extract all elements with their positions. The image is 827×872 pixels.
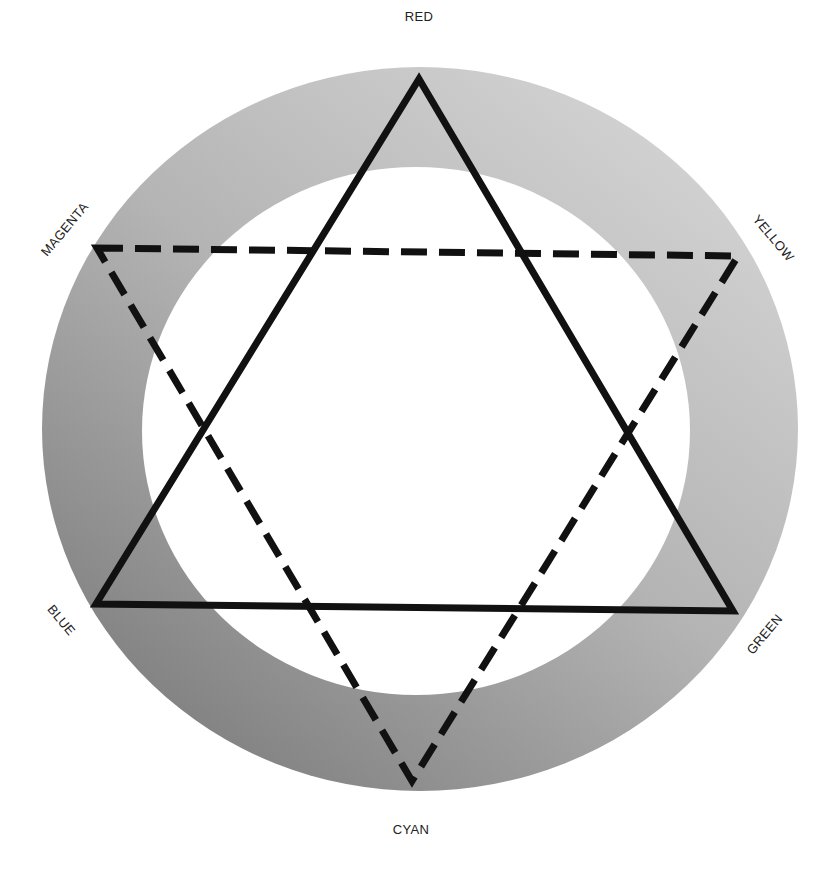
label-cyan: CYAN: [393, 822, 429, 837]
gray-ring: [42, 67, 798, 791]
label-blue: BLUE: [44, 602, 78, 639]
label-red: RED: [405, 9, 433, 24]
label-magenta: MAGENTA: [38, 199, 92, 259]
label-yellow: YELLOW: [750, 212, 798, 265]
label-green: GREEN: [743, 611, 785, 657]
color-wheel-diagram: RED CYAN MAGENTA YELLOW BLUE GREEN: [0, 0, 827, 872]
